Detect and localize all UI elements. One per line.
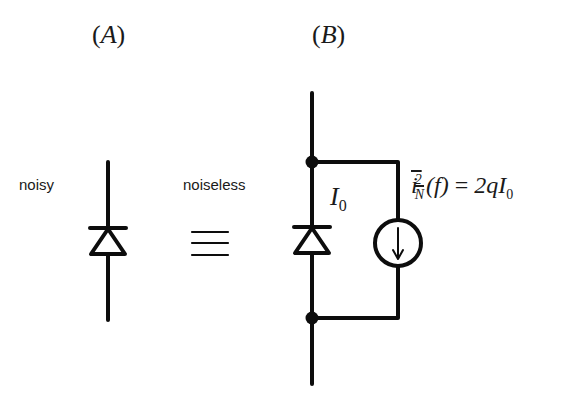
equivalence-icon bbox=[192, 232, 228, 255]
current-symbol: I bbox=[330, 182, 339, 211]
wire-branch-top bbox=[312, 162, 398, 219]
noise-subscript: N bbox=[415, 187, 424, 202]
noise-superscript: 2 bbox=[415, 172, 422, 187]
node-top-icon bbox=[306, 156, 319, 169]
rhs-subscript: 0 bbox=[506, 187, 513, 202]
diode-b-icon bbox=[294, 227, 330, 253]
wire-branch-bottom bbox=[312, 267, 398, 318]
current-subscript: 0 bbox=[339, 197, 347, 214]
diode-a-icon bbox=[90, 162, 126, 320]
node-bottom-icon bbox=[306, 312, 319, 325]
noise-equation: i2N(f) = 2qI0 bbox=[411, 172, 513, 203]
current-source-icon bbox=[375, 220, 421, 266]
equals-sign: = bbox=[449, 172, 475, 198]
diode-current-label: I0 bbox=[330, 182, 347, 215]
frequency-argument: (f) bbox=[426, 172, 449, 198]
circuit-b bbox=[294, 93, 421, 384]
shot-noise-expression: 2qI bbox=[474, 172, 506, 198]
